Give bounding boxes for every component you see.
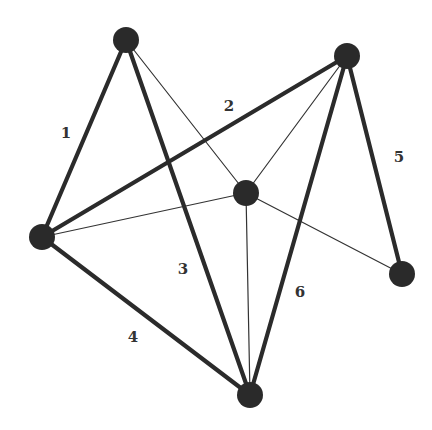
edge-1 xyxy=(42,40,126,237)
nodes-group xyxy=(29,27,415,408)
node-top xyxy=(113,27,139,53)
thin-edge-center-left xyxy=(42,193,246,237)
thin-edge-center-top xyxy=(126,40,246,193)
node-left xyxy=(29,224,55,250)
edge-label-4: 4 xyxy=(128,328,138,346)
node-center xyxy=(233,180,259,206)
thin-edge-center-bottom xyxy=(246,193,250,395)
edge-label-3: 3 xyxy=(178,260,188,278)
graph-diagram: 123456 xyxy=(0,0,432,430)
thin-edges-group xyxy=(42,40,402,395)
edge-label-5: 5 xyxy=(394,148,404,166)
node-top-right xyxy=(334,43,360,69)
thick-edges-group xyxy=(42,40,402,395)
thin-edge-center-right xyxy=(246,193,402,274)
edge-label-6: 6 xyxy=(295,283,305,301)
edge-3 xyxy=(126,40,250,395)
edge-4 xyxy=(42,237,250,395)
edge-label-2: 2 xyxy=(224,97,234,115)
edge-label-1: 1 xyxy=(61,124,71,142)
thin-edge-center-top-right xyxy=(246,56,347,193)
node-right xyxy=(389,261,415,287)
node-bottom xyxy=(237,382,263,408)
